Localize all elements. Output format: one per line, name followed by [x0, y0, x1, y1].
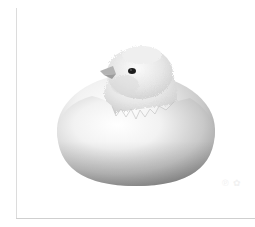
chick-eye: [128, 68, 136, 74]
watermark-text: ℗ ✿: [222, 178, 242, 188]
image-card: ℗ ✿: [0, 0, 255, 227]
chick: [104, 46, 177, 113]
chick-in-egg-photo: [0, 0, 255, 227]
